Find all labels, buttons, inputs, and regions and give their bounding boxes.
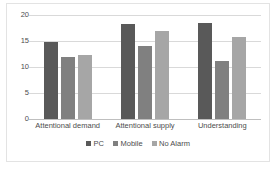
bar[interactable]: [78, 55, 92, 119]
bar-group: [184, 15, 261, 119]
bar[interactable]: [44, 42, 58, 119]
bar[interactable]: [215, 61, 229, 119]
legend-swatch-icon: [113, 141, 118, 146]
x-tick-label: Attentional supply: [106, 121, 183, 130]
y-tick-label-15: 15: [11, 37, 29, 45]
legend-entry[interactable]: PC: [86, 139, 104, 148]
y-tick-label-5: 5: [11, 89, 29, 97]
bar[interactable]: [232, 37, 246, 119]
x-tick-label: Attentional demand: [29, 121, 106, 130]
bar[interactable]: [198, 23, 212, 119]
x-axis-category-labels: Attentional demandAttentional supplyUnde…: [29, 121, 261, 130]
legend-label: Mobile: [120, 139, 142, 148]
gridline-0: [29, 119, 261, 120]
plot-area: [29, 15, 261, 119]
legend-label: PC: [94, 139, 104, 148]
legend-entry[interactable]: Mobile: [113, 139, 143, 148]
bar-chart-figure: 05101520 Attentional demandAttentional s…: [6, 3, 270, 162]
chart-legend: PCMobileNo Alarm: [7, 139, 269, 148]
bar[interactable]: [138, 46, 152, 119]
x-tick-label: Understanding: [184, 121, 261, 130]
legend-label: No Alarm: [159, 139, 190, 148]
legend-swatch-icon: [86, 141, 91, 146]
bar-group: [106, 15, 183, 119]
bar-group: [29, 15, 106, 119]
y-tick-label-0: 0: [11, 115, 29, 123]
bar[interactable]: [155, 31, 169, 119]
y-axis-tick-labels: 05101520: [11, 15, 29, 119]
bar[interactable]: [61, 57, 75, 119]
y-tick-label-20: 20: [11, 11, 29, 19]
y-tick-label-10: 10: [11, 63, 29, 71]
legend-entry[interactable]: No Alarm: [152, 139, 190, 148]
bar[interactable]: [121, 24, 135, 119]
bar-series-layer: [29, 15, 261, 119]
legend-swatch-icon: [152, 141, 157, 146]
